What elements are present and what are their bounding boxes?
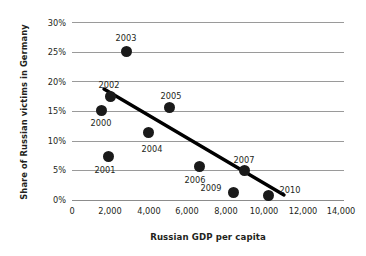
y-tick-label: 0% [26,195,66,205]
point-label-2002: 2002 [94,80,124,90]
data-point-2003[interactable] [121,46,132,57]
data-point-2005[interactable] [164,102,175,113]
x-tick-label: 14,000 [319,206,363,216]
y-tick-label: 20% [26,77,66,87]
point-label-2001: 2001 [90,165,120,175]
point-label-2004: 2004 [137,144,167,154]
point-label-2005: 2005 [156,91,186,101]
x-axis-line [72,200,344,201]
x-tick-label: 6,000 [165,206,209,216]
point-label-2010: 2010 [275,185,305,195]
gridline-10 [72,141,344,142]
y-tick-label: 5% [26,165,66,175]
point-label-2007: 2007 [229,155,259,165]
x-tick-label: 10,000 [242,206,286,216]
point-label-2003: 2003 [111,33,141,43]
y-tick-label: 25% [26,47,66,57]
y-tick-label: 10% [26,136,66,146]
gridline-15 [72,111,344,112]
data-point-2002[interactable] [105,91,116,102]
y-tick-label: 15% [26,106,66,116]
data-point-2006[interactable] [194,161,205,172]
x-axis-title: Russian GDP per capita [72,232,344,242]
data-point-2004[interactable] [143,127,154,138]
plot-area: 2000 2001 2002 2003 2004 2005 2006 2007 … [72,22,344,200]
gridline-30 [72,22,344,23]
point-label-2000: 2000 [86,118,116,128]
x-tick-label: 2,000 [88,206,132,216]
point-label-2009: 2009 [196,183,226,193]
data-point-2001[interactable] [103,151,114,162]
data-point-2007[interactable] [239,165,250,176]
y-tick-label: 30% [26,18,66,28]
data-point-2000[interactable] [96,105,107,116]
gridline-25 [72,52,344,53]
scatter-chart: Share of Russian victims in Germany Russ… [0,0,366,256]
data-point-2009[interactable] [228,187,239,198]
data-point-2010[interactable] [263,190,274,201]
